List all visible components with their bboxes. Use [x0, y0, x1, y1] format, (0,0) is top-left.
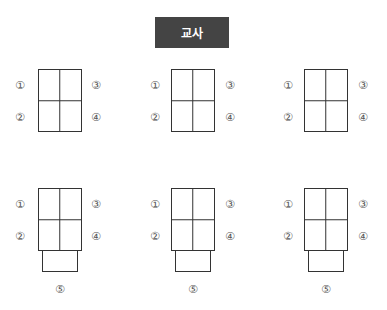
seat-1-label: ①: [147, 199, 163, 211]
seat-1-label: ①: [147, 80, 163, 92]
seat-4-label: ④: [88, 231, 104, 243]
desk-cluster: [38, 188, 82, 251]
desk-extension: [308, 251, 344, 272]
desk-cluster: [304, 188, 348, 251]
seat-4-label: ④: [88, 112, 104, 124]
desk-extension: [42, 251, 78, 272]
seat-3-label: ③: [355, 80, 371, 92]
seat-2-label: ②: [12, 231, 28, 243]
seat-1-label: ①: [12, 80, 28, 92]
seat-2-label: ②: [280, 112, 296, 124]
seat-1-label: ①: [280, 80, 296, 92]
seat-4-label: ④: [355, 231, 371, 243]
seat-3-label: ③: [355, 199, 371, 211]
teacher-desk: 교사: [155, 17, 229, 48]
seat-4-label: ④: [222, 112, 238, 124]
seat-5-label: ⑤: [185, 284, 201, 296]
seat-3-label: ③: [222, 199, 238, 211]
seat-2-label: ②: [147, 231, 163, 243]
seat-3-label: ③: [88, 80, 104, 92]
desk-cluster: [304, 69, 348, 132]
seat-3-label: ③: [222, 80, 238, 92]
desk-extension: [175, 251, 211, 272]
seat-4-label: ④: [355, 112, 371, 124]
seat-1-label: ①: [12, 199, 28, 211]
seat-2-label: ②: [280, 231, 296, 243]
seat-2-label: ②: [147, 112, 163, 124]
seat-4-label: ④: [222, 231, 238, 243]
desk-cluster: [38, 69, 82, 132]
desk-cluster: [171, 69, 215, 132]
seat-5-label: ⑤: [52, 284, 68, 296]
seat-5-label: ⑤: [318, 284, 334, 296]
seat-1-label: ①: [280, 199, 296, 211]
seat-3-label: ③: [88, 199, 104, 211]
seat-2-label: ②: [12, 112, 28, 124]
desk-cluster: [171, 188, 215, 251]
